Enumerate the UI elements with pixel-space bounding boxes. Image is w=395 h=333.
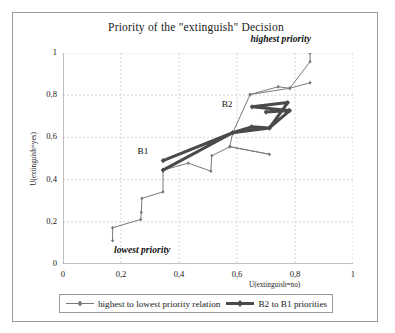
legend-label: B2 to B1 priorities — [258, 299, 327, 309]
annotation-highest-priority: highest priority — [250, 33, 311, 44]
plot-svg — [63, 53, 353, 264]
x-tick-label: 0,2 — [108, 269, 134, 279]
x-tick-label: 0 — [50, 269, 76, 279]
legend-label: highest to lowest priority relation — [98, 299, 220, 309]
plot-area — [63, 53, 353, 264]
annotation-lowest-priority: lowest priority — [114, 244, 170, 255]
legend-item[interactable]: highest to lowest priority relation — [65, 298, 220, 309]
chart-screenshot: Priority of the "extinguish" Decision U(… — [0, 0, 395, 333]
legend-marker-thin-diamond-line — [65, 298, 95, 309]
y-axis-title-wrap: U(extinguish=yes) — [27, 53, 41, 264]
y-tick-label: 1 — [31, 47, 57, 57]
x-tick-label: 0,6 — [224, 269, 250, 279]
y-tick-label: 0,2 — [31, 216, 57, 226]
legend-marker-thick-diamond-line — [225, 298, 255, 309]
x-axis-title: U(extinguish=no) — [249, 281, 300, 289]
tick-marks — [63, 53, 353, 264]
x-tick-label: 1 — [340, 269, 366, 279]
chart-title: Priority of the "extinguish" Decision — [13, 21, 379, 33]
chart-legend: highest to lowest priority relation B2 t… — [59, 294, 333, 313]
y-tick-label: 0,6 — [31, 131, 57, 141]
axes — [63, 53, 353, 264]
legend-item[interactable]: B2 to B1 priorities — [225, 298, 327, 309]
y-tick-label: 0,4 — [31, 174, 57, 184]
annotation-b2: B2 — [222, 99, 233, 109]
x-tick-label: 0,8 — [282, 269, 308, 279]
y-tick-label: 0,8 — [31, 89, 57, 99]
y-tick-label: 0 — [31, 258, 57, 268]
annotation-b1: B1 — [138, 146, 149, 156]
chart-frame: Priority of the "extinguish" Decision U(… — [12, 12, 378, 322]
gridlines — [63, 53, 353, 264]
x-tick-label: 0,4 — [166, 269, 192, 279]
